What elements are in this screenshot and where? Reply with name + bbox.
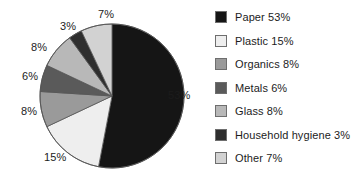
pie-slices bbox=[40, 24, 184, 168]
slice-label-household-hygiene: 3% bbox=[60, 21, 76, 32]
pie-chart-figure: 53% 15% 8% 6% 8% 3% 7% Paper 53%Plastic … bbox=[0, 0, 361, 187]
legend-swatch-icon bbox=[215, 58, 227, 70]
legend-item-household-hygiene[interactable]: Household hygiene 3% bbox=[215, 128, 350, 142]
legend-swatch-icon bbox=[215, 35, 227, 47]
legend-label: Metals 6% bbox=[235, 82, 287, 94]
legend-item-glass[interactable]: Glass 8% bbox=[215, 104, 283, 118]
legend-swatch-icon bbox=[215, 11, 227, 23]
slice-label-plastic: 15% bbox=[44, 152, 66, 163]
legend-label: Paper 53% bbox=[235, 11, 290, 23]
slice-label-organics: 8% bbox=[21, 106, 37, 117]
legend-swatch-icon bbox=[215, 82, 227, 94]
legend-label: Plastic 15% bbox=[235, 35, 294, 47]
legend-item-plastic[interactable]: Plastic 15% bbox=[215, 34, 294, 48]
legend-item-other[interactable]: Other 7% bbox=[215, 151, 282, 165]
legend-label: Household hygiene 3% bbox=[235, 129, 350, 141]
slice-label-metals: 6% bbox=[22, 71, 38, 82]
legend-item-paper[interactable]: Paper 53% bbox=[215, 10, 290, 24]
legend-swatch-icon bbox=[215, 105, 227, 117]
legend-label: Other 7% bbox=[235, 152, 282, 164]
pie-plot-area: 53% 15% 8% 6% 8% 3% 7% bbox=[0, 0, 210, 187]
slice-label-paper: 53% bbox=[168, 90, 190, 101]
legend-label: Glass 8% bbox=[235, 105, 283, 117]
slice-label-glass: 8% bbox=[31, 42, 47, 53]
legend-item-metals[interactable]: Metals 6% bbox=[215, 81, 287, 95]
legend-swatch-icon bbox=[215, 129, 227, 141]
legend-item-organics[interactable]: Organics 8% bbox=[215, 57, 299, 71]
legend-label: Organics 8% bbox=[235, 58, 299, 70]
legend-swatch-icon bbox=[215, 152, 227, 164]
slice-label-other: 7% bbox=[98, 9, 114, 20]
chart-legend: Paper 53%Plastic 15%Organics 8%Metals 6%… bbox=[215, 10, 361, 180]
